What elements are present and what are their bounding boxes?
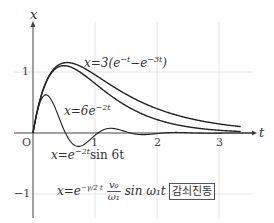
equation-label-1: x=3(e−t−e−3t) <box>84 56 167 69</box>
eq3-exp: −2t <box>75 147 90 156</box>
eq1-exp1: −t <box>120 55 130 64</box>
y-tick-minus-1: −1 <box>14 188 30 199</box>
eq1-lhs: x=3(e <box>84 56 120 70</box>
eq1-mid: −e <box>130 56 147 70</box>
eq4-rhs: sin ω₁t <box>125 184 166 198</box>
origin-label: O <box>22 137 31 148</box>
eq2-exp: −2t <box>96 103 111 112</box>
damped-oscillation-tag: 감쇠진동 <box>169 183 215 200</box>
eq4-exp: −γ/2 t <box>81 184 103 192</box>
eq1-exp2: −3t <box>147 55 162 64</box>
eq2-lhs: x=6e <box>64 104 96 118</box>
x-axis-label: t <box>259 126 264 139</box>
equation-label-2: x=6e−2t <box>64 104 111 117</box>
curve-1 <box>33 63 241 133</box>
y-tick-1: 1 <box>22 66 29 77</box>
eq4-denominator: ω₁ <box>107 192 121 203</box>
eq1-rhs: ) <box>162 56 167 70</box>
eq4-fraction: v₀ω₁ <box>107 180 121 202</box>
eq3-rhs: sin 6t <box>90 148 124 162</box>
equation-label-4: x=e−γ/2 t v₀ω₁ sin ω₁t감쇠진동 <box>57 180 215 202</box>
eq3-lhs: x=e <box>51 148 75 162</box>
x-tick-1: 1 <box>91 137 98 148</box>
x-tick-3: 3 <box>216 137 223 148</box>
x-tick-2: 2 <box>154 137 161 148</box>
y-axis-label: x <box>30 8 37 21</box>
equation-label-3: x=e−2tsin 6t <box>51 148 124 161</box>
eq4-numerator: v₀ <box>107 180 121 192</box>
eq4-lhs: x=e <box>57 184 81 198</box>
